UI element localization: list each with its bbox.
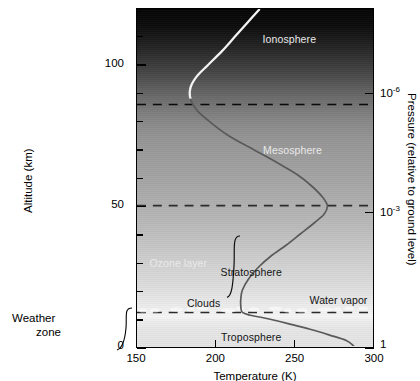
region-label-troposphere: Troposphere [221,331,281,343]
altitude-tick-100 [137,64,146,65]
weather-zone-label-line2: zone [36,326,61,338]
pressure-tick-label-1: 1 [380,338,386,350]
weather-zone-brace-icon [116,307,134,351]
region-label-ionosphere: Ionosphere [263,33,317,45]
temperature-axis-title: Temperature (K) [213,370,296,381]
altitude-tick-50 [137,206,146,207]
altitude-tick-10 [137,319,143,320]
pressure-tick-1e-3 [365,212,374,213]
pressure-tick-base-1e-6: 10 [380,87,393,99]
atmosphere-temperature-profile-chart: IonosphereMesosphereStratosphereOzone la… [0,0,420,381]
ytick-label-50: 50 [111,198,124,210]
xtick-label-300: 300 [364,352,383,364]
pressure-tick-1e-6 [365,93,374,94]
pressure-tick-1 [365,348,374,349]
altitude-tick-40 [137,234,143,235]
temperature-tick-200 [215,340,216,348]
pressure-tick-base-1e-3: 10 [380,206,393,218]
plot-area: IonosphereMesosphereStratosphereOzone la… [136,8,374,348]
altitude-tick-110 [137,36,143,37]
altitude-tick-30 [137,263,143,264]
altitude-tick-0 [137,348,146,349]
pressure-axis-title: Pressure (relative to ground level) [406,93,418,266]
temperature-tick-250 [294,340,295,348]
pressure-tick-label-1e-3: 10-3 [380,204,400,218]
region-label-water-vapor: Water vapor [310,294,368,306]
region-label-ozone-layer: Ozone layer [149,257,207,269]
ytick-label-100: 100 [105,57,124,69]
weather-zone-label-line1: Weather [12,312,55,324]
pressure-tick-exponent-1e-3: -3 [393,204,400,213]
xtick-label-250: 250 [285,352,304,364]
altitude-tick-60 [137,178,143,179]
pressure-tick-label-1e-6: 10-6 [380,85,400,99]
altitude-tick-80 [137,121,143,122]
pressure-tick-exponent-1e-6: -6 [393,85,400,94]
altitude-tick-20 [137,291,143,292]
stratosphere-brace-icon [226,235,242,300]
region-label-clouds: Clouds [187,297,220,309]
altitude-tick-90 [137,93,143,94]
altitude-axis-title: Altitude (km) [22,148,34,213]
region-label-mesosphere: Mesosphere [263,144,322,156]
altitude-tick-70 [137,149,143,150]
xtick-label-200: 200 [206,352,225,364]
xtick-label-150: 150 [126,352,145,364]
